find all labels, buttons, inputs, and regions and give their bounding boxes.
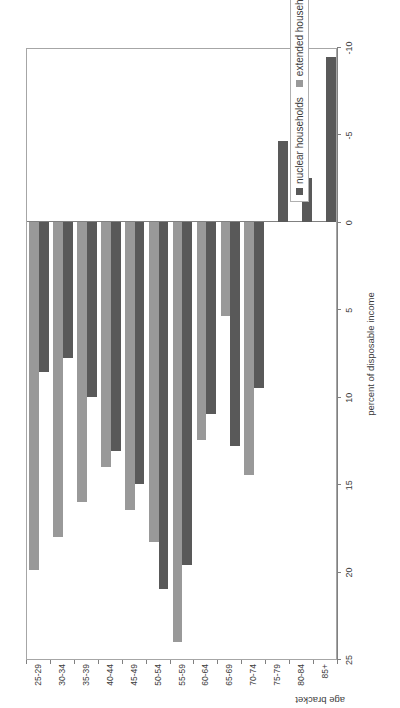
category-tick-85+ (313, 660, 314, 664)
category-label-45-49: 45-49 (129, 664, 139, 708)
bar-60-64-extended (197, 222, 207, 441)
rotated-chart-wrapper: 2520151050-5-10 25-2930-3435-3940-4445-4… (0, 0, 400, 708)
legend-swatch-icon-extended (296, 80, 303, 87)
bar-75-79-nuclear (278, 141, 288, 221)
bar-65-69-nuclear (230, 222, 240, 446)
legend-item-nuclear-households: nuclear households (294, 97, 305, 195)
value-tick--5 (337, 134, 341, 135)
category-tick-80-84 (289, 660, 290, 664)
category-label-75-79: 75-79 (272, 664, 282, 708)
category-tick-55-59 (170, 660, 171, 664)
bar-85+-nuclear (326, 58, 336, 222)
bar-35-39-nuclear (87, 222, 97, 397)
bar-40-44-nuclear (111, 222, 121, 451)
value-axis-line (337, 48, 338, 660)
bar-25-29-nuclear (39, 222, 49, 372)
category-label-35-39: 35-39 (81, 664, 91, 708)
category-axis-title: age bracket (295, 695, 345, 706)
bar-40-44-extended (101, 222, 111, 467)
bar-45-49-extended (125, 222, 135, 511)
category-label-30-34: 30-34 (57, 664, 67, 708)
bar-50-54-extended (149, 222, 159, 542)
category-tick-end (337, 660, 338, 664)
category-tick-60-64 (193, 660, 194, 664)
bar-55-59-extended (173, 222, 183, 642)
category-tick-30-34 (50, 660, 51, 664)
category-tick-75-79 (265, 660, 266, 664)
category-label-25-29: 25-29 (33, 664, 43, 708)
chart-legend: nuclear households extended households (290, 0, 309, 202)
bar-35-39-extended (77, 222, 87, 502)
category-label-70-74: 70-74 (248, 664, 258, 708)
value-tick-label-0: 0 (344, 220, 354, 225)
bar-50-54-nuclear (159, 222, 169, 589)
bar-25-29-extended (29, 222, 39, 570)
legend-label-extended: extended households (294, 0, 305, 76)
category-label-50-54: 50-54 (153, 664, 163, 708)
value-tick-label-10: 10 (344, 393, 354, 403)
bar-45-49-nuclear (135, 222, 145, 484)
bar-30-34-nuclear (63, 222, 73, 358)
value-tick-5 (337, 309, 341, 310)
legend-item-extended-households: extended households (294, 0, 305, 87)
value-tick-0 (337, 222, 341, 223)
category-label-55-59: 55-59 (177, 664, 187, 708)
bar-30-34-extended (53, 222, 63, 537)
category-tick-35-39 (74, 660, 75, 664)
category-label-65-69: 65-69 (224, 664, 234, 708)
chart-figure: 2520151050-5-10 25-2930-3435-3940-4445-4… (0, 0, 400, 708)
value-tick-label-25: 25 (344, 655, 354, 665)
bar-70-74-extended (244, 222, 254, 476)
category-tick-45-49 (122, 660, 123, 664)
value-tick-label-15: 15 (344, 480, 354, 490)
value-tick-label-20: 20 (344, 568, 354, 578)
value-axis-title: percent of disposable income (365, 0, 376, 708)
value-tick-label--5: -5 (344, 131, 354, 139)
value-tick-15 (337, 484, 341, 485)
legend-swatch-icon-nuclear (296, 188, 303, 195)
value-tick--10 (337, 47, 341, 48)
value-tick-20 (337, 572, 341, 573)
category-tick-25-29 (26, 660, 27, 664)
bar-65-69-extended (221, 222, 231, 316)
value-tick-10 (337, 397, 341, 398)
bar-55-59-nuclear (182, 222, 192, 565)
category-tick-70-74 (241, 660, 242, 664)
category-label-60-64: 60-64 (200, 664, 210, 708)
value-tick-label-5: 5 (344, 308, 354, 313)
category-label-40-44: 40-44 (105, 664, 115, 708)
category-tick-50-54 (146, 660, 147, 664)
value-tick-label--10: -10 (344, 41, 354, 54)
bar-60-64-nuclear (206, 222, 216, 414)
category-tick-40-44 (98, 660, 99, 664)
bar-70-74-nuclear (254, 222, 264, 388)
legend-label-nuclear: nuclear households (294, 97, 305, 184)
category-tick-65-69 (217, 660, 218, 664)
